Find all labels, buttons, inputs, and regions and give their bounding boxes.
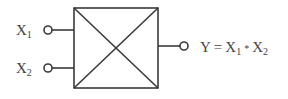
input-x1: X1 (16, 22, 74, 40)
output-y: Y=X1*X2 (158, 39, 268, 57)
input-x2-label: X2 (16, 60, 32, 78)
output-terminal-icon (180, 42, 188, 50)
input-x1-label: X1 (16, 22, 32, 40)
input-x2-terminal-icon (44, 64, 52, 72)
multiplier-block-diagram: X1 X2 Y=X1*X2 (0, 0, 288, 99)
input-x1-terminal-icon (44, 26, 52, 34)
input-x2: X2 (16, 60, 74, 78)
multiplier-block (74, 8, 158, 88)
output-equation: Y=X1*X2 (200, 39, 268, 57)
